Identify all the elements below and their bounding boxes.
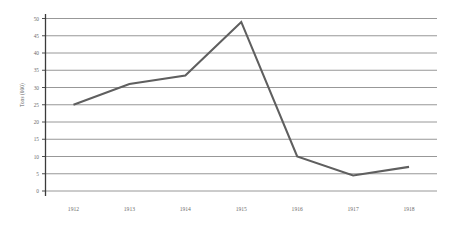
x-axis-tick-label: 1913 [109,206,149,212]
x-axis-tick-label: 1918 [389,206,429,212]
x-axis-tick-label: 1916 [277,206,317,212]
line-chart: Tons (000) 05101520253035404550 19121913… [0,0,450,228]
plot-area [0,0,450,228]
x-axis-tick-label: 1915 [221,206,261,212]
x-axis-tick-label: 1912 [53,206,93,212]
x-axis-tick-label: 1914 [165,206,205,212]
gridlines [46,19,438,192]
x-axis-tick-label: 1917 [333,206,373,212]
data-series-line [73,22,409,176]
